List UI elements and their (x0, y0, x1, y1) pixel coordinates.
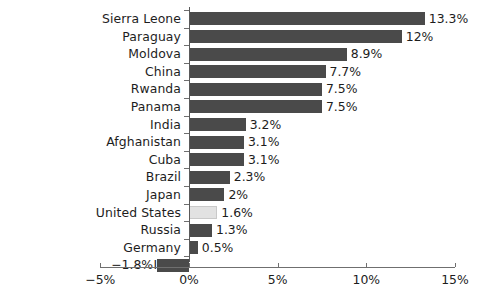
bar-row: Russia1.3% (0, 221, 483, 239)
bar-cuba[interactable] (189, 153, 244, 166)
value-label-china: 7.7% (330, 63, 361, 81)
x-axis-line (100, 267, 455, 268)
category-label-united-states: United States (0, 204, 181, 222)
bar-united-states[interactable] (189, 206, 217, 219)
category-label-china: China (0, 63, 181, 81)
bar-panama[interactable] (189, 100, 322, 113)
bar-row: Germany0.5% (0, 239, 483, 257)
x-axis-tick (455, 263, 456, 267)
bar-china[interactable] (189, 65, 326, 78)
bar-row: Sierra Leone13.3% (0, 10, 483, 28)
value-label-india: 3.2% (250, 116, 281, 134)
bar-india[interactable] (189, 118, 246, 131)
value-label-italy: −1.8% (111, 256, 153, 274)
category-label-russia: Russia (0, 221, 181, 239)
x-axis-tick (366, 263, 367, 267)
bar-row: Brazil2.3% (0, 168, 483, 186)
bar-sierra-leone[interactable] (189, 12, 425, 25)
x-axis-tick-label: 5% (268, 273, 288, 287)
category-label-germany: Germany (0, 239, 181, 257)
bar-moldova[interactable] (189, 48, 347, 61)
x-axis-tick-label: −5% (85, 273, 115, 287)
value-label-brazil: 2.3% (234, 168, 265, 186)
bar-row: India3.2% (0, 116, 483, 134)
bar-row: Japan2% (0, 186, 483, 204)
x-axis-tick-label: 15% (441, 273, 469, 287)
bar-row: Italy−1.8% (0, 256, 483, 274)
bar-brazil[interactable] (189, 171, 230, 184)
plot-area: Sierra Leone13.3%Paraguay12%Moldova8.9%C… (0, 5, 483, 267)
value-label-rwanda: 7.5% (326, 80, 357, 98)
bar-afghanistan[interactable] (189, 136, 244, 149)
bar-row: Afghanistan3.1% (0, 133, 483, 151)
category-label-india: India (0, 116, 181, 134)
x-axis-tick-label: 0% (179, 273, 199, 287)
value-label-cuba: 3.1% (248, 151, 279, 169)
x-axis-tick (100, 263, 101, 267)
category-label-cuba: Cuba (0, 151, 181, 169)
bar-row: Rwanda7.5% (0, 80, 483, 98)
value-label-panama: 7.5% (326, 98, 357, 116)
category-label-sierra-leone: Sierra Leone (0, 10, 181, 28)
category-label-rwanda: Rwanda (0, 80, 181, 98)
y-axis-spine (189, 7, 190, 262)
bar-russia[interactable] (189, 224, 212, 237)
bar-row: United States1.6% (0, 204, 483, 222)
category-label-brazil: Brazil (0, 168, 181, 186)
bar-row: Paraguay12% (0, 28, 483, 46)
bar-rwanda[interactable] (189, 83, 322, 96)
category-label-panama: Panama (0, 98, 181, 116)
bar-paraguay[interactable] (189, 30, 402, 43)
bar-germany[interactable] (189, 241, 198, 254)
x-axis-tick (278, 263, 279, 267)
value-label-russia: 1.3% (216, 221, 247, 239)
category-label-paraguay: Paraguay (0, 28, 181, 46)
category-label-moldova: Moldova (0, 45, 181, 63)
bar-italy[interactable] (157, 259, 189, 272)
value-label-moldova: 8.9% (351, 45, 382, 63)
value-label-afghanistan: 3.1% (248, 133, 279, 151)
value-label-japan: 2% (228, 186, 248, 204)
bar-japan[interactable] (189, 188, 224, 201)
value-label-paraguay: 12% (406, 28, 434, 46)
x-axis-tick (189, 263, 190, 267)
bar-row: China7.7% (0, 63, 483, 81)
value-label-germany: 0.5% (202, 239, 233, 257)
bar-row: Panama7.5% (0, 98, 483, 116)
bar-row: Moldova8.9% (0, 45, 483, 63)
category-label-afghanistan: Afghanistan (0, 133, 181, 151)
bar-row: Cuba3.1% (0, 151, 483, 169)
category-label-japan: Japan (0, 186, 181, 204)
x-axis-tick-label: 10% (353, 273, 381, 287)
value-label-united-states: 1.6% (221, 204, 252, 222)
bar-chart: Sierra Leone13.3%Paraguay12%Moldova8.9%C… (0, 0, 483, 302)
value-label-sierra-leone: 13.3% (429, 10, 468, 28)
